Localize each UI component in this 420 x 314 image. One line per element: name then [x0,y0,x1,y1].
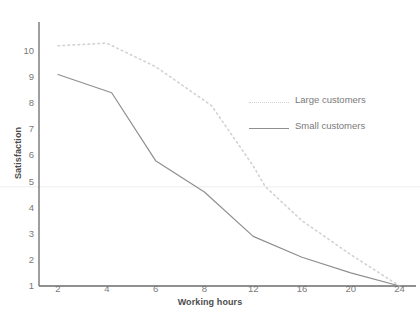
legend-item-small-customers[interactable]: Small customers [277,118,417,144]
legend: Large customers Small customers [277,92,417,144]
series-layer [58,43,400,286]
legend-label: Large customers [295,94,366,105]
legend-swatch-solid-icon [249,128,289,129]
legend-label: Small customers [295,120,365,131]
chart-container: Satisfaction Working hours 12345678910 2… [0,0,420,314]
series-line-large-customers [58,43,400,286]
legend-swatch-dotted-icon [249,102,289,103]
legend-item-large-customers[interactable]: Large customers [277,92,417,118]
plot-area [0,0,420,314]
